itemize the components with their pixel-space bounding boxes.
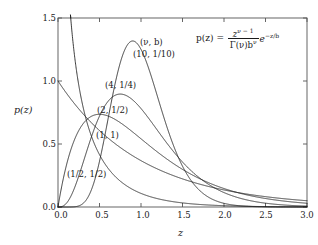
curve-label-text-1: (4, 1/4) [105,80,136,90]
curve-1-1 [58,81,307,201]
curve-annotation-10-1-10: (10, 1/10) [133,50,175,60]
curve-4-1-4 [58,94,307,207]
xtick-label-2: 1.0 [131,211,155,220]
gamma-distribution-figure: 0.0 0.5 1.0 1.5 0.0 0.5 1.0 1.5 2.0 2.5 … [0,0,318,245]
ytick-label-3: 1.5 [34,14,56,23]
xtick-label-5: 2.5 [254,211,278,220]
curve-annotation-4-1-4: (4, 1/4) [105,81,136,91]
formula-numerator-exponent: ν − 1 [237,27,253,34]
xtick-label-6: 3.0 [295,211,318,220]
curve-annotation-1-2-1-2: (1/2, 1/2) [67,170,106,180]
pdf-formula: p(z) = zν − 1 Γ(ν)bν e−z/b [196,28,279,50]
params-header-text: (ν, b) [140,37,163,47]
curve-label-text-3: (1, 1) [96,130,119,140]
x-axis-title: z [178,228,183,238]
formula-tail: e−z/b [260,33,279,44]
xtick-label-0: 0.0 [49,211,73,220]
curve-10-1-10 [58,41,307,207]
formula-denominator-exponent: ν [253,38,257,45]
formula-tail-exponent: −z/b [265,32,279,39]
xtick-label-3: 1.5 [172,211,196,220]
xtick-label-1: 0.5 [90,211,114,220]
curve-annotation-1-1: (1, 1) [96,131,119,141]
ytick-label-1: 0.5 [34,140,56,149]
curve-label-text-2: (2, 1/2) [97,105,128,115]
curve-label-text-4: (1/2, 1/2) [67,169,106,179]
ytick-label-2: 1.0 [34,77,56,86]
curve-2-1-2 [58,114,307,207]
curve-annotation-2-1-2: (2, 1/2) [97,106,128,116]
formula-denominator: Γ(ν)bν [228,39,259,49]
xtick-label-4: 2.0 [213,211,237,220]
curve-label-text-0: (10, 1/10) [133,49,175,59]
formula-lhs: p(z) = [196,34,224,43]
formula-denominator-base: Γ(ν)b [230,40,253,50]
formula-fraction: zν − 1 Γ(ν)bν [228,28,259,50]
curve-annotation-params-header: (ν, b) [140,38,163,48]
y-axis-title: p(z) [14,105,33,115]
